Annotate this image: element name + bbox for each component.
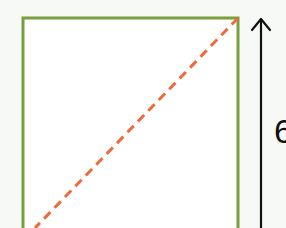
square-diagram [0,0,286,228]
height-label: 6 [274,114,286,148]
height-arrow-icon [252,19,270,228]
diagram-canvas: 6 [0,0,286,228]
